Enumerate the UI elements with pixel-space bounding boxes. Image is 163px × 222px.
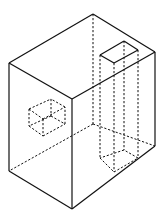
block-hidden-edge: [9, 124, 93, 171]
hole-opening-edge: [100, 55, 114, 63]
cavity-hidden-edge: [43, 124, 65, 136]
cavity-hidden-edge: [43, 107, 65, 119]
isometric-block-diagram: [0, 0, 163, 222]
hole-opening-edge: [100, 41, 124, 55]
hole-hidden-edge: [100, 150, 124, 158]
hole-opening-edge: [124, 41, 138, 50]
hole-hidden-edge: [124, 150, 138, 158]
drawing-canvas: [0, 0, 163, 222]
cavity-hidden-edge: [29, 126, 43, 136]
block-edge: [9, 14, 93, 63]
hole-opening-edge: [114, 50, 138, 63]
hole-hidden-edge: [100, 158, 114, 172]
block-edge: [9, 171, 72, 209]
hole-hidden-edge: [114, 158, 138, 172]
cavity-hidden-edge: [51, 116, 65, 124]
visible-lines: [9, 14, 155, 209]
cavity-hidden-edge: [51, 99, 65, 107]
cavity-hidden-edge: [29, 109, 43, 119]
block-edge: [9, 63, 72, 99]
cavity-hidden-edge: [29, 99, 51, 109]
cavity-hidden-edge: [29, 116, 51, 126]
